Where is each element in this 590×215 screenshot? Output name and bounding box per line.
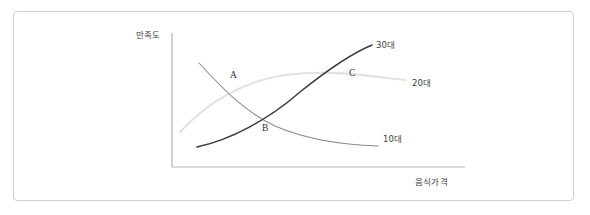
point-label-c: C bbox=[349, 68, 355, 78]
figure-canvas: 만족도 음식가격 30대 20대 10대 A B C bbox=[0, 0, 590, 215]
series-curve-20dae bbox=[180, 73, 405, 132]
point-label-a: A bbox=[230, 70, 237, 80]
point-label-b: B bbox=[262, 123, 268, 133]
series-label-10dae: 10대 bbox=[383, 132, 402, 144]
axes-group bbox=[172, 33, 465, 167]
y-axis-label: 만족도 bbox=[136, 28, 161, 40]
series-curves-group bbox=[180, 45, 405, 147]
series-label-20dae: 20대 bbox=[412, 76, 431, 88]
plot-area bbox=[0, 0, 590, 215]
series-label-30dae: 30대 bbox=[376, 38, 395, 50]
x-axis-label: 음식가격 bbox=[415, 175, 448, 187]
